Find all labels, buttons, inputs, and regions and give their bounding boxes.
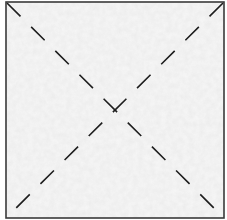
diagram-canvas (0, 0, 227, 220)
square-diagram (0, 0, 227, 220)
